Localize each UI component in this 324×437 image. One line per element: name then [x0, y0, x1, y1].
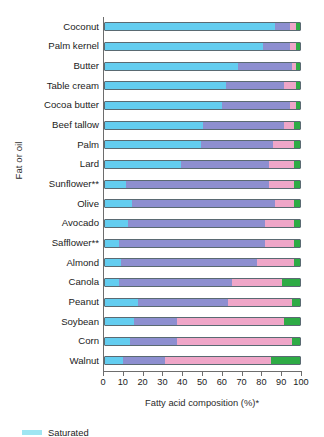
bar-category-label: Olive: [77, 199, 99, 209]
bar-segment: [292, 299, 300, 306]
bar-row: Table cream: [104, 76, 301, 96]
x-axis-tick: [182, 371, 183, 376]
bar-segment: [257, 259, 294, 266]
bar-category-label: Palm kernel: [48, 42, 99, 52]
bar-segment: [284, 122, 294, 129]
bar-segment: [134, 318, 177, 325]
stacked-bar: [104, 356, 301, 365]
bar-segment: [105, 200, 132, 207]
bar-row: Butter: [104, 56, 301, 76]
bar-segment: [121, 259, 258, 266]
legend-label-saturated: Saturated: [48, 427, 89, 437]
bar-segment: [294, 259, 300, 266]
bar-segment: [105, 102, 222, 109]
bar-category-label: Peanut: [69, 297, 99, 307]
x-axis-tick: [143, 371, 144, 376]
bar-row: Safflower**: [104, 233, 301, 253]
bar-segment: [105, 82, 226, 89]
bar-row: Corn: [104, 332, 301, 352]
bar-segment: [269, 181, 294, 188]
bar-segment: [296, 43, 300, 50]
bar-segment: [263, 43, 290, 50]
bar-category-label: Butter: [73, 61, 99, 71]
bar-category-label: Palm: [77, 140, 99, 150]
bar-segment: [165, 357, 270, 364]
stacked-bar: [104, 121, 301, 130]
x-axis: 0102030405060708090100: [103, 371, 301, 372]
bar-segment: [105, 357, 123, 364]
bar-segment: [294, 240, 300, 247]
bar-segment: [294, 141, 300, 148]
bar-row: Peanut: [104, 292, 301, 312]
bar-category-label: Table cream: [47, 81, 99, 91]
bar-segment: [284, 318, 300, 325]
x-axis-tick: [242, 371, 243, 376]
bar-segment: [296, 63, 300, 70]
bar-segment: [222, 102, 290, 109]
x-axis-tick-label: 0: [100, 377, 105, 387]
bar-row: Avocado: [104, 214, 301, 234]
bar-segment: [105, 141, 201, 148]
plot-area: CoconutPalm kernelButterTable creamCocoa…: [103, 17, 301, 371]
x-axis-tick-label: 70: [236, 377, 246, 387]
x-axis-tick-label: 90: [276, 377, 286, 387]
bar-segment: [105, 318, 134, 325]
bar-segment: [296, 102, 300, 109]
x-axis-tick-label: 50: [197, 377, 207, 387]
stacked-bar: [104, 22, 301, 31]
bar-segment: [265, 220, 294, 227]
bar-category-label: Avocado: [62, 219, 99, 229]
x-axis-tick-label: 60: [217, 377, 227, 387]
bar-segment: [138, 299, 228, 306]
bar-segment: [275, 200, 295, 207]
bar-segment: [105, 122, 203, 129]
x-axis-tick: [301, 371, 302, 376]
stacked-bar: [104, 199, 301, 208]
bar-segment: [269, 161, 294, 168]
bar-row: Sunflower**: [104, 174, 301, 194]
bar-segment: [271, 357, 300, 364]
bar-segment: [105, 279, 119, 286]
bar-segment: [296, 23, 300, 30]
x-axis-tick-label: 30: [157, 377, 167, 387]
bar-row: Coconut: [104, 17, 301, 37]
bar-segment: [275, 23, 291, 30]
bar-category-label: Lard: [80, 160, 99, 170]
bar-segment: [126, 181, 268, 188]
bar-segment: [132, 200, 274, 207]
x-axis-tick: [222, 371, 223, 376]
bar-segment: [105, 299, 138, 306]
bar-segment: [181, 161, 269, 168]
bar-segment: [265, 240, 294, 247]
bar-row: Olive: [104, 194, 301, 214]
stacked-bar: [104, 81, 301, 90]
bar-row: Almond: [104, 253, 301, 273]
bar-category-label: Canola: [69, 278, 99, 288]
bar-segment: [294, 161, 300, 168]
bar-category-label: Sunflower**: [49, 179, 99, 189]
bar-row: Beef tallow: [104, 115, 301, 135]
x-axis-tick: [281, 371, 282, 376]
stacked-bar: [104, 337, 301, 346]
stacked-bar: [104, 101, 301, 110]
bar-row: Cocoa butter: [104, 96, 301, 116]
bar-segment: [105, 240, 119, 247]
bar-segment: [294, 200, 300, 207]
bar-segment: [119, 240, 265, 247]
stacked-bar: [104, 140, 301, 149]
bar-segment: [238, 63, 293, 70]
bar-segment: [123, 357, 166, 364]
bar-segment: [294, 122, 300, 129]
x-axis-tick: [103, 371, 104, 376]
bar-category-label: Walnut: [69, 356, 99, 366]
bar-segment: [105, 220, 128, 227]
bar-segment: [201, 141, 273, 148]
stacked-bar: [104, 219, 301, 228]
bar-category-label: Safflower**: [52, 238, 99, 248]
stacked-bar: [104, 278, 301, 287]
bar-segment: [296, 82, 300, 89]
stacked-bar: [104, 258, 301, 267]
bar-category-label: Cocoa butter: [44, 101, 99, 111]
stacked-bar: [104, 239, 301, 248]
stacked-bar: [104, 180, 301, 189]
